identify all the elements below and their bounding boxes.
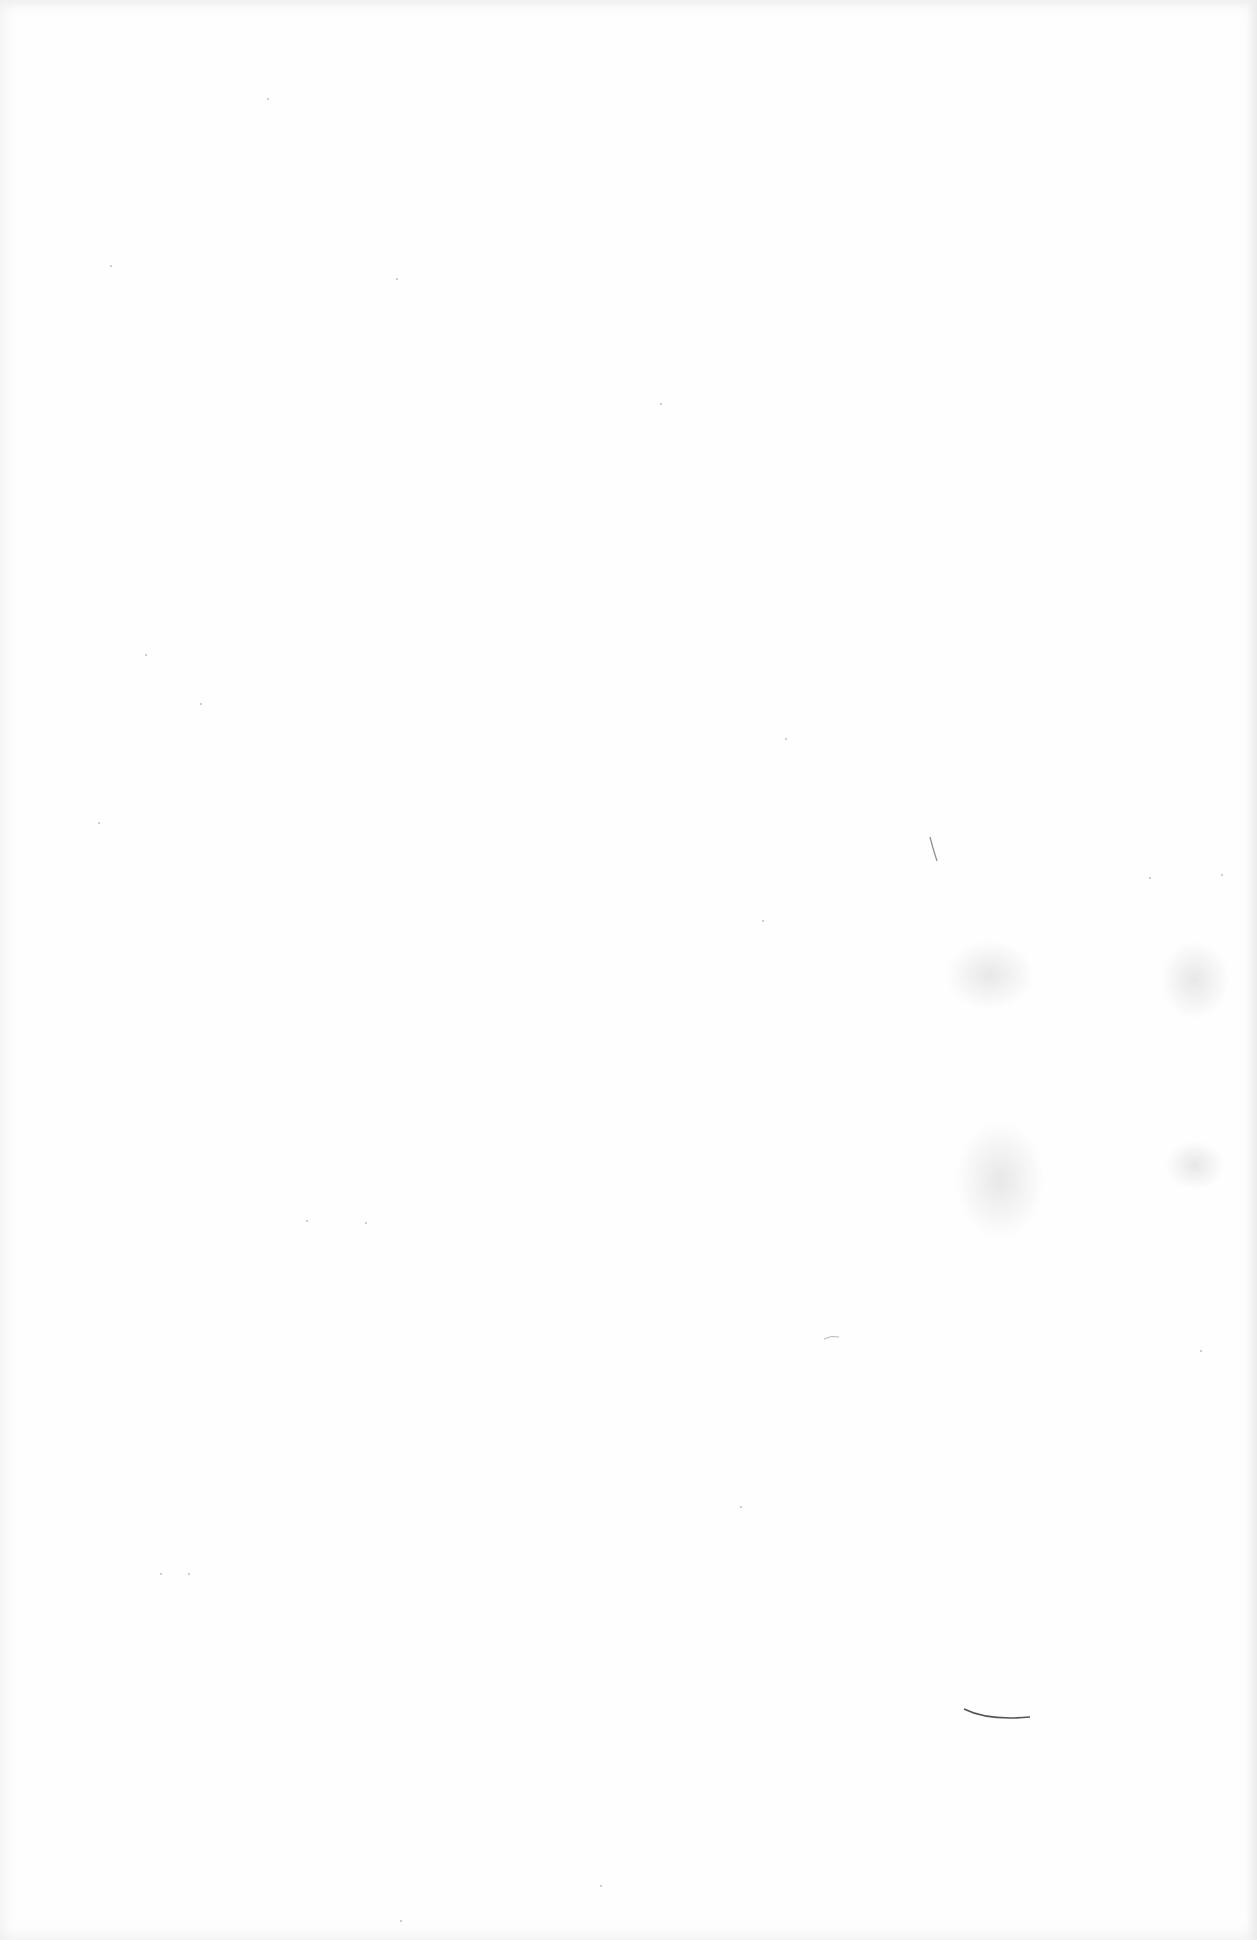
- speck: [306, 1220, 308, 1222]
- speck: [160, 1573, 162, 1575]
- speck: [200, 703, 202, 705]
- page-top-edge-shadow: [0, 0, 1257, 8]
- speck: [400, 1920, 402, 1922]
- speck: [396, 278, 398, 280]
- speck: [600, 1885, 602, 1887]
- stray-curve-mark: [962, 1705, 1034, 1725]
- blank-page: [0, 0, 1257, 1940]
- speck: [98, 822, 100, 824]
- speck: [110, 265, 112, 267]
- speck: [1149, 877, 1151, 879]
- speck: [1200, 1350, 1202, 1352]
- speck: [740, 1506, 742, 1508]
- show-through-blotch: [1165, 1140, 1225, 1190]
- show-through-blotch: [945, 940, 1035, 1010]
- speck: [762, 920, 764, 922]
- speck: [188, 1573, 190, 1575]
- speck: [267, 98, 269, 100]
- speck: [785, 738, 787, 740]
- speck: [145, 654, 147, 656]
- speck: [365, 1222, 367, 1224]
- speck: [660, 403, 662, 405]
- show-through-blotch: [1160, 940, 1230, 1020]
- stray-dash-mark: [822, 1333, 842, 1343]
- stray-stroke-mark: [928, 835, 940, 865]
- page-right-edge-shadow: [1247, 0, 1257, 1940]
- speck: [1221, 874, 1223, 876]
- show-through-blotch: [955, 1120, 1045, 1240]
